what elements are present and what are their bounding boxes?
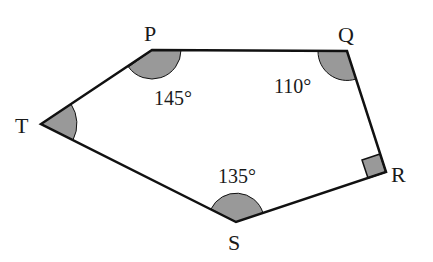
angle-label-p: 145° (154, 87, 192, 109)
vertex-label-s: S (228, 230, 240, 255)
angle-marker-p (129, 50, 182, 79)
vertex-label-t: T (15, 113, 29, 138)
angle-marker-t (41, 104, 77, 140)
vertex-label-p: P (144, 21, 156, 46)
vertex-label-q: Q (338, 22, 354, 47)
angle-label-q: 110° (274, 75, 311, 97)
angle-label-s: 135° (218, 165, 256, 187)
angle-marker-s (211, 193, 263, 222)
angle-marker-q (318, 51, 356, 80)
pentagon-diagram: P Q R S T 145° 110° 135° (0, 0, 433, 262)
vertex-label-r: R (391, 162, 406, 187)
